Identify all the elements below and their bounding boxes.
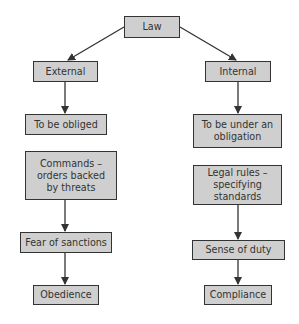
node-law: Law <box>124 16 180 38</box>
node-label: Compliance <box>210 289 266 301</box>
node-label: Legal rules – specifying standards <box>206 167 269 203</box>
node-commands: Commands – orders backed by threats <box>25 151 117 200</box>
node-label: Law <box>142 21 161 33</box>
node-internal: Internal <box>205 61 271 82</box>
node-label: To be under an obligation <box>200 119 275 143</box>
node-fear-of-sanctions: Fear of sanctions <box>20 232 112 253</box>
node-label: Commands – orders backed by threats <box>32 158 110 194</box>
node-compliance: Compliance <box>204 285 272 305</box>
node-label: Internal <box>220 66 257 78</box>
node-legal-rules: Legal rules – specifying standards <box>193 165 282 205</box>
node-under-obligation: To be under an obligation <box>193 114 282 148</box>
node-label: Obedience <box>40 289 91 301</box>
node-label: To be obliged <box>34 119 98 131</box>
node-to-be-obliged: To be obliged <box>25 114 107 135</box>
node-obedience: Obedience <box>33 285 99 305</box>
node-label: Fear of sanctions <box>25 237 107 249</box>
node-sense-of-duty: Sense of duty <box>192 240 285 260</box>
node-external: External <box>33 61 98 82</box>
node-label: Sense of duty <box>206 244 272 256</box>
law-flow-diagram: Law External To be obliged Commands – or… <box>0 0 299 324</box>
node-label: External <box>46 66 86 78</box>
